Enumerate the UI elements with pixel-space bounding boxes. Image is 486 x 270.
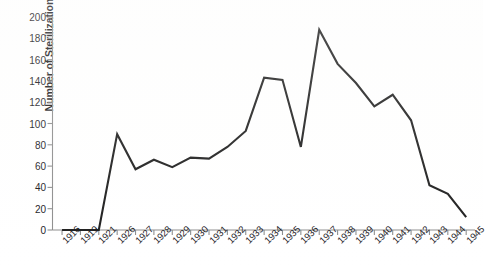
x-axis-tick-label: 1933 [243,224,265,246]
x-axis-tick-label: 1944 [445,224,467,246]
x-axis-tick-label: 1929 [170,224,192,246]
x-axis-tick-label: 1919 [78,224,100,246]
x-axis-tick-label: 1945 [464,224,486,246]
x-axis-tick-label: 1942 [409,224,431,246]
x-axis-tick-label: 1921 [96,224,118,246]
x-axis-tick-label: 1926 [115,224,137,246]
x-axis-tick-label: 1938 [335,224,357,246]
x-axis-tick-label: 1916 [60,224,82,246]
x-axis-tick-label: 1927 [133,224,155,246]
x-axis-tick-label: 1935 [280,224,302,246]
x-axis-tick-label: 1931 [207,224,229,246]
x-axis-tick-label: 1939 [353,224,375,246]
x-axis-tick-label: 1930 [188,224,210,246]
x-axis-tick-label: 1928 [151,224,173,246]
x-axis-tick-label: 1941 [390,224,412,246]
x-axis-tick-label: 1937 [317,224,339,246]
x-axis-tick-label: 1934 [262,224,284,246]
x-axis-tick-label: 1940 [372,224,394,246]
x-axis-tick-label: 1936 [298,224,320,246]
x-axis-tick-label: 1932 [225,224,247,246]
x-axis-tick-label: 1943 [427,224,449,246]
